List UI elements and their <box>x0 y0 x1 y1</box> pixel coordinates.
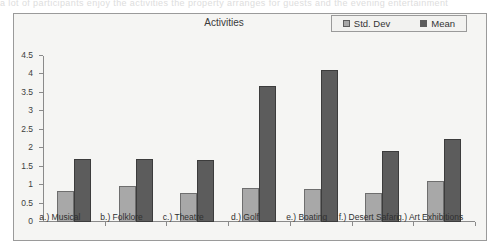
legend-item-mean: Mean <box>420 18 455 29</box>
y-axis-tick-label: 4 <box>28 68 33 78</box>
bar-group <box>303 70 339 222</box>
legend-label-mean: Mean <box>431 18 455 29</box>
y-axis-tick: 2.5 <box>39 129 43 130</box>
legend-item-std-dev: Std. Dev <box>343 18 390 29</box>
x-axis-category-label: d.) Golf <box>231 212 259 222</box>
legend-swatch-std-dev-icon <box>343 20 350 27</box>
x-axis-labels: a.) Musicalb.) Folklorec.) Theatred.) Go… <box>29 212 475 226</box>
bar-group <box>426 139 462 222</box>
y-axis-tick-label: 1.5 <box>21 161 33 171</box>
plot-area: 00.511.522.533.544.5 <box>43 56 475 222</box>
y-axis <box>43 56 44 222</box>
x-axis-category-label: b.) Folklore <box>100 212 143 222</box>
y-axis-tick-label: 4.5 <box>21 50 33 60</box>
y-axis-tick: 1 <box>39 184 43 185</box>
bar-mean <box>321 70 338 222</box>
y-axis-tick: 4 <box>39 73 43 74</box>
legend-swatch-mean-icon <box>420 20 427 27</box>
y-axis-tick-label: 3.5 <box>21 87 33 97</box>
y-axis-tick-label: 3 <box>28 105 33 115</box>
bar-mean <box>259 86 276 222</box>
y-axis-tick: 1.5 <box>39 166 43 167</box>
x-axis-category-label: e.) Boating <box>286 212 327 222</box>
x-axis-category-label: g.) Art Exhibitions <box>397 212 463 222</box>
x-axis-category-label: f.) Desert Safari <box>339 212 399 222</box>
y-axis-tick-label: 1 <box>28 179 33 189</box>
y-axis-tick: 2 <box>39 147 43 148</box>
y-axis-tick: 4.5 <box>39 55 43 56</box>
y-axis-tick-label: 2.5 <box>21 124 33 134</box>
chart-legend: Std. Dev Mean <box>331 15 467 32</box>
y-axis-tick-label: 2 <box>28 142 33 152</box>
scanned-top-text-fragment: a lot of participants enjoy the activiti… <box>0 0 500 10</box>
y-axis-tick: 0.5 <box>39 203 43 204</box>
y-axis-tick-label: 0.5 <box>21 198 33 208</box>
chart-frame: Activities Std. Dev Mean 00.511.522.533.… <box>13 13 487 241</box>
bar-mean <box>444 139 461 222</box>
y-axis-tick: 3.5 <box>39 92 43 93</box>
x-axis-tick <box>475 222 476 226</box>
legend-label-std-dev: Std. Dev <box>354 18 390 29</box>
x-axis-category-label: a.) Musical <box>39 212 80 222</box>
y-axis-tick: 3 <box>39 110 43 111</box>
bar-group <box>241 86 277 222</box>
chart-header: Activities Std. Dev Mean <box>14 14 486 36</box>
x-axis-category-label: c.) Theatre <box>163 212 204 222</box>
